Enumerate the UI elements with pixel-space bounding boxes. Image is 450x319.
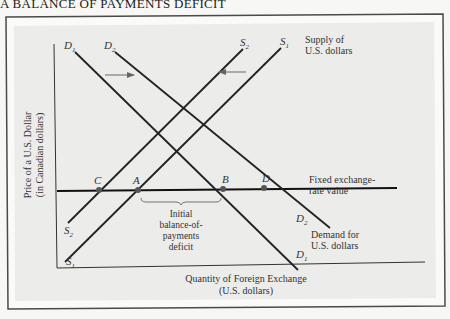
- x-axis-label-line2: (U.S. dollars): [219, 285, 273, 297]
- deficit-label-line2: balance-of-: [159, 220, 202, 230]
- fixed-rate-label-line1: Fixed exchange-: [309, 174, 375, 185]
- point-c-label: C: [94, 174, 102, 186]
- point-d: [261, 185, 267, 191]
- demand-label-line2: U.S. dollars: [311, 240, 359, 251]
- point-b-label: B: [222, 173, 229, 185]
- balance-of-payments-chart: Price of a U.S. Dollar (in Canadian doll…: [0, 0, 450, 319]
- deficit-label-line1: Initial: [170, 209, 193, 219]
- supply-label-line2: U.S. dollars: [305, 45, 353, 56]
- point-a: [135, 187, 141, 193]
- chart-panel: [14, 22, 436, 301]
- x-axis-label-line1: Quantity of Foreign Exchange: [185, 273, 307, 284]
- deficit-label-line3: payments: [163, 231, 200, 241]
- fixed-rate-label-line2: rate value: [309, 185, 349, 196]
- y-axis-label-line2: (in Canadian dollars): [34, 113, 46, 197]
- point-a-label: A: [132, 174, 140, 186]
- supply-label-line1: Supply of: [305, 34, 345, 45]
- deficit-label-line4: deficit: [169, 242, 194, 252]
- y-axis-label-line1: Price of a U.S. Dollar: [22, 111, 33, 198]
- point-d-label: D: [261, 172, 270, 184]
- point-c: [96, 187, 102, 193]
- demand-label-line1: Demand for: [311, 229, 360, 240]
- point-b: [220, 186, 226, 192]
